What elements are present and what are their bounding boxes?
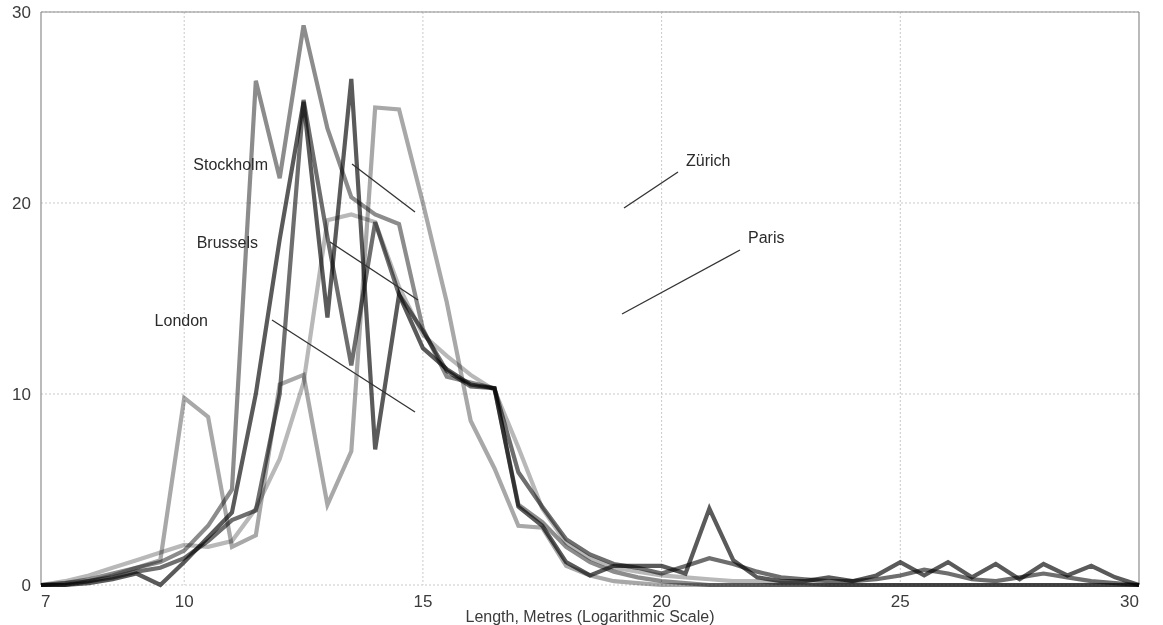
x-tick-label-10: 10: [175, 592, 194, 611]
annotation-label-brussels: Brussels: [197, 234, 258, 251]
x-tick-label-30: 30: [1120, 592, 1139, 611]
y-tick-label-10: 10: [12, 385, 31, 404]
y-tick-label-30: 30: [12, 3, 31, 22]
annotation-label-stockholm: Stockholm: [193, 156, 268, 173]
chart-canvas: StockholmBrusselsLondonZürichParis 01020…: [0, 0, 1163, 625]
x-tick-label-15: 15: [413, 592, 432, 611]
x-axis-title: Length, Metres (Logarithmic Scale): [466, 608, 715, 625]
annotation-label-london: London: [155, 312, 208, 329]
x-tick-label-7: 7: [41, 592, 50, 611]
annotation-label-zrich: Zürich: [686, 152, 730, 169]
annotation-label-paris: Paris: [748, 229, 784, 246]
y-tick-label-0: 0: [22, 576, 31, 595]
y-tick-label-20: 20: [12, 194, 31, 213]
x-tick-label-25: 25: [891, 592, 910, 611]
line-chart-figure: StockholmBrusselsLondonZürichParis 01020…: [0, 0, 1163, 625]
